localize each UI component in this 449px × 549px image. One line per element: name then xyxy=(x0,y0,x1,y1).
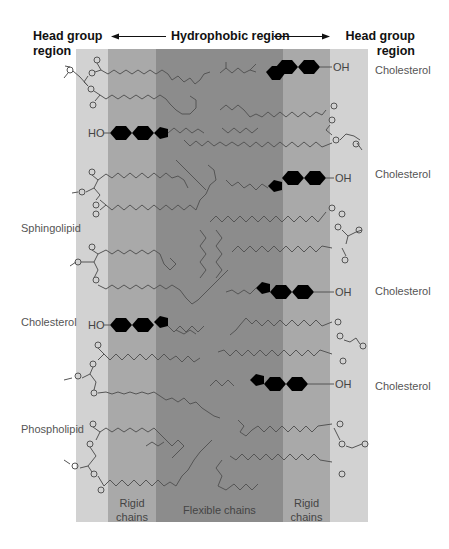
sphingolipid-lower xyxy=(70,244,228,304)
svg-text:HO: HO xyxy=(88,127,105,139)
sphingolipid-molecule xyxy=(72,165,216,217)
cholesterol-molecule-right-4: OH xyxy=(210,374,352,391)
ester-chain-right-3 xyxy=(218,318,366,364)
ester-chain-left-3 xyxy=(64,342,220,418)
label-rigid-chains-left: Rigid chains xyxy=(108,496,156,524)
phospholipid-lower xyxy=(64,421,212,493)
cholesterol-molecule-left-2: HO xyxy=(88,316,204,332)
label-flexible-chains: Flexible chains xyxy=(156,503,283,517)
svg-text:HO: HO xyxy=(88,319,105,331)
label-rigid-right-line1: Rigid xyxy=(283,496,330,510)
svg-text:OH: OH xyxy=(333,61,350,73)
label-rigid-chains-right: Rigid chains xyxy=(283,496,330,524)
cholesterol-molecule-left-1: HO xyxy=(88,126,258,140)
cholesterol-molecule-right-2: OH xyxy=(226,171,352,192)
lipid-structures-drawing: OH HO OH xyxy=(0,0,449,549)
cholesterol-molecule: OH xyxy=(220,60,350,80)
ester-chain-right-2 xyxy=(210,205,362,263)
ester-chain-right-4 xyxy=(216,420,368,490)
cholesterol-molecule-right-3: OH xyxy=(226,282,352,299)
ester-chain xyxy=(184,103,362,150)
svg-text:OH: OH xyxy=(335,286,352,298)
label-rigid-right-line2: chains xyxy=(283,510,330,524)
svg-text:OH: OH xyxy=(335,378,352,390)
phospholipid-molecule xyxy=(64,57,210,114)
flexible-chains-center xyxy=(176,160,222,334)
svg-text:OH: OH xyxy=(335,172,352,184)
label-rigid-left-line1: Rigid xyxy=(108,496,156,510)
label-rigid-left-line2: chains xyxy=(108,510,156,524)
